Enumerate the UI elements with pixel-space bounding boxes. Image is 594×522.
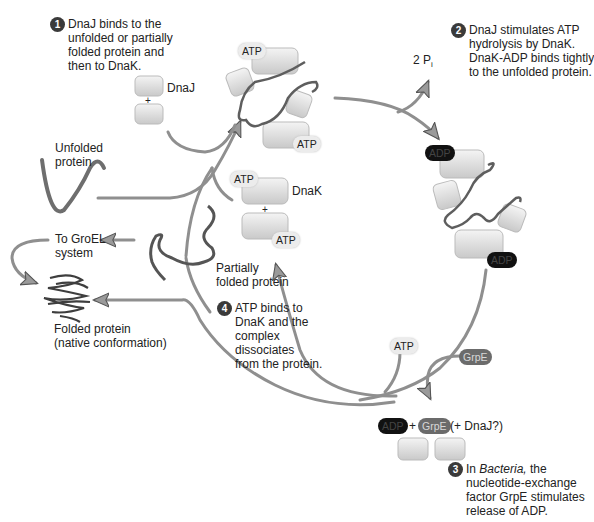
step-line: ATP binds to: [235, 301, 322, 315]
step-line: then to DnaK.: [68, 59, 173, 73]
unfolded-protein-label: Unfolded protein: [55, 141, 103, 169]
arrow-groel-to-folded: [12, 240, 48, 283]
label-line: Partially: [216, 261, 289, 275]
step-1-text: DnaJ binds to the unfolded or partially …: [68, 17, 173, 73]
step-line: factor GrpE stimulates: [466, 490, 585, 504]
step-4-text: ATP binds to DnaK and the complex dissoc…: [235, 301, 322, 371]
two-pi-text: 2 P: [413, 53, 431, 67]
step-3-badge: 3: [448, 462, 463, 477]
arrow-dnaj-in: [168, 125, 235, 152]
to-groel-label: To GroEL system: [55, 232, 106, 260]
step-line: DnaJ binds to the: [68, 17, 173, 31]
step-line: folded protein and: [68, 45, 173, 59]
exchange-plus: +: [409, 419, 416, 433]
dnaj-label: DnaJ: [167, 81, 195, 95]
step-line: from the protein.: [235, 357, 322, 371]
step-line: DnaJ stimulates ATP: [469, 23, 594, 37]
step-3-text: In Bacteria, the nucleotide-exchange fac…: [466, 462, 585, 518]
dnak-label: DnaK: [292, 184, 322, 198]
step-2-text: DnaJ stimulates ATP hydrolysis by DnaK. …: [469, 23, 594, 79]
label-line: Unfolded: [55, 141, 103, 155]
arrow-step1-to-step2: [335, 98, 438, 138]
step-2-badge: 2: [451, 23, 466, 38]
adp-badge: ADP: [425, 145, 455, 161]
dnak-adp-protein-complex: [432, 150, 527, 258]
arrow-2pi: [398, 82, 428, 112]
step-line: release of ADP.: [466, 504, 585, 518]
atp-badge: ATP: [238, 43, 266, 59]
step-line: to the unfolded protein.: [469, 65, 594, 79]
label-line: (native conformation): [54, 336, 167, 350]
step-3-post: the: [527, 462, 547, 476]
arrow-atp-in: [385, 352, 400, 392]
released-dnak-pair: [398, 438, 465, 460]
step-line: unfolded or partially: [68, 31, 173, 45]
step-line: nucleotide-exchange: [466, 476, 585, 490]
label-line: To GroEL: [55, 232, 106, 246]
label-line: system: [55, 246, 106, 260]
atp-badge: ATP: [272, 232, 300, 248]
step-line: DnaK and the: [235, 315, 322, 329]
dnak-plus: +: [262, 203, 268, 217]
atp-badge: ATP: [293, 136, 321, 152]
step-3-italic: Bacteria,: [479, 462, 526, 476]
step-line: In Bacteria, the: [466, 462, 585, 476]
step-line: hydrolysis by DnaK.: [469, 37, 594, 51]
atp-badge: ATP: [230, 171, 258, 187]
step-line: dissociates: [235, 343, 322, 357]
arrow-step2-down: [360, 270, 486, 400]
adp-badge: ADP: [487, 252, 517, 268]
grpe-badge: GrpE: [459, 349, 492, 365]
exchange-grpe: GrpE: [418, 418, 451, 434]
step-line: DnaK-ADP binds tightly: [469, 51, 594, 65]
partially-folded-protein-ribbon: [151, 206, 214, 280]
partially-folded-label: Partially folded protein: [216, 261, 289, 289]
step-4-badge: 4: [217, 301, 232, 316]
folded-protein-label: Folded protein (native conformation): [54, 322, 167, 350]
label-line: folded protein: [216, 275, 289, 289]
step-1-badge: 1: [50, 17, 65, 32]
step-line: complex: [235, 329, 322, 343]
dnaj-plus: +: [145, 94, 151, 108]
folded-protein-ribbon: [44, 275, 90, 322]
exchange-dnaj-question: (+ DnaJ?): [450, 419, 503, 433]
label-line: protein: [55, 155, 103, 169]
exchange-adp: ADP: [378, 418, 408, 434]
atp-badge: ATP: [390, 338, 418, 354]
label-line: Folded protein: [54, 322, 167, 336]
step-3-pre: In: [466, 462, 479, 476]
dnak-dnaj-protein-complex: [225, 48, 318, 148]
two-pi-label: 2 Pi: [413, 53, 433, 72]
pi-subscript: i: [431, 60, 433, 69]
